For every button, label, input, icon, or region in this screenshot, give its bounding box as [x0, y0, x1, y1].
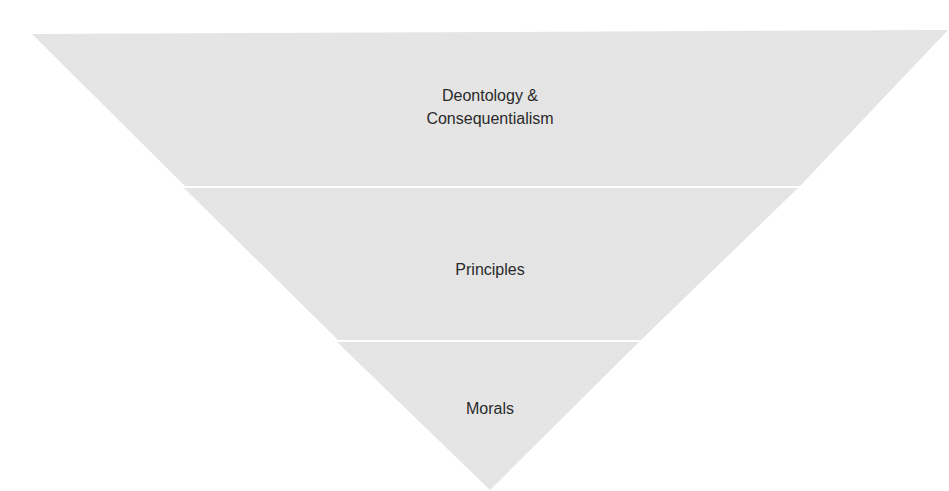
level-label-deontology-consequentialism: Deontology & Consequentialism: [426, 84, 553, 130]
level-label-morals: Morals: [466, 397, 514, 420]
level-label-line-2: Consequentialism: [426, 107, 553, 130]
level-label-principles: Principles: [455, 258, 524, 281]
level-label-line-1: Deontology &: [426, 84, 553, 107]
